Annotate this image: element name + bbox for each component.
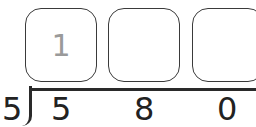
dividend-digit-1: 5 bbox=[51, 92, 71, 126]
divisor: 5 bbox=[2, 92, 22, 126]
dividend-digit-3: 0 bbox=[217, 92, 237, 126]
dividend-digit-2: 8 bbox=[134, 92, 154, 126]
quotient-box-3[interactable] bbox=[192, 8, 256, 82]
quotient-box-2[interactable] bbox=[108, 8, 180, 82]
quotient-box-1[interactable]: 1 bbox=[25, 8, 97, 82]
division-bracket bbox=[22, 86, 32, 126]
